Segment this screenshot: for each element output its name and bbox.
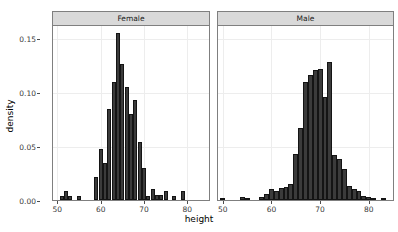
x-tick-mark xyxy=(101,201,102,204)
y-tick-label: 0.05 xyxy=(19,142,36,151)
histogram-bar xyxy=(220,198,225,200)
x-tick-mark xyxy=(369,201,370,204)
x-tick-label: 80 xyxy=(364,205,374,214)
y-tick-mark xyxy=(37,93,40,94)
x-tick-label: 50 xyxy=(218,205,228,214)
x-tick-mark xyxy=(144,201,145,204)
x-tick-mark xyxy=(223,201,224,204)
y-tick-mark xyxy=(37,39,40,40)
histogram-bar xyxy=(164,191,168,200)
plot-area-female xyxy=(52,26,210,201)
y-axis-title: density xyxy=(2,0,16,232)
y-axis-labels: 0.000.050.100.15 xyxy=(16,0,40,232)
histogram-bar xyxy=(181,191,185,200)
x-tick-label: 70 xyxy=(139,205,149,214)
histogram-bar xyxy=(68,196,72,200)
facet-strip-label: Female xyxy=(117,14,144,23)
histogram-bar xyxy=(245,198,250,200)
y-tick-mark xyxy=(37,147,40,148)
x-tick-mark xyxy=(271,201,272,204)
histogram-bars-male xyxy=(218,26,393,200)
chart-root: density 0.000.050.100.15 Female 50607080… xyxy=(0,0,398,232)
x-tick-label: 60 xyxy=(267,205,277,214)
x-tick-mark xyxy=(57,201,58,204)
facet-panel-male: Male 50607080 xyxy=(217,11,394,201)
x-tick-label: 70 xyxy=(315,205,325,214)
x-tick-mark xyxy=(320,201,321,204)
x-axis-title: height xyxy=(0,214,398,224)
y-tick-mark xyxy=(37,201,40,202)
facet-strip-label: Male xyxy=(297,14,315,23)
histogram-bar xyxy=(381,198,386,200)
x-tick-label: 60 xyxy=(96,205,106,214)
x-tick-mark xyxy=(187,201,188,204)
x-tick-label: 80 xyxy=(183,205,193,214)
histogram-bars-female xyxy=(53,26,209,200)
x-tick-label: 50 xyxy=(53,205,63,214)
facet-panel-female: Female 50607080 xyxy=(52,11,210,201)
histogram-bar xyxy=(371,198,376,200)
histogram-bar xyxy=(77,196,81,200)
facet-strip-male: Male xyxy=(217,11,394,26)
histogram-bar xyxy=(172,196,176,200)
y-tick-label: 0.00 xyxy=(19,197,36,206)
y-tick-label: 0.15 xyxy=(19,34,36,43)
facet-strip-female: Female xyxy=(52,11,210,26)
plot-area-male xyxy=(217,26,394,201)
y-tick-label: 0.10 xyxy=(19,88,36,97)
